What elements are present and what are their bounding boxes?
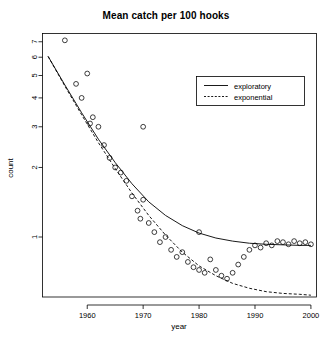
y-tick-label: 1 [30, 235, 39, 239]
data-point [138, 216, 143, 221]
data-point [258, 245, 263, 250]
legend-label-exponential: exponential [234, 93, 273, 102]
y-axis: 1234567 [30, 40, 43, 239]
data-point [236, 262, 241, 267]
y-tick-label: 4 [30, 96, 39, 100]
data-point [303, 240, 308, 245]
data-point [269, 243, 274, 248]
data-point [219, 273, 224, 278]
data-point [135, 208, 140, 213]
data-point [208, 257, 213, 262]
data-point [152, 230, 157, 235]
y-tick-label: 7 [30, 40, 39, 44]
data-point [79, 96, 84, 101]
data-point [74, 81, 79, 86]
data-point [185, 260, 190, 265]
data-point [292, 239, 297, 244]
legend-label-exploratory: exploratory [234, 82, 271, 91]
x-axis: 19601970198019902000 [79, 305, 319, 320]
data-point [146, 221, 151, 226]
x-tick-label: 2000 [303, 311, 320, 320]
data-point [264, 241, 269, 246]
data-point [281, 240, 286, 245]
chart-page: Mean catch per 100 hooks 1234567 1960197… [0, 0, 332, 345]
data-point [90, 115, 95, 120]
x-axis-title: year [171, 322, 187, 331]
scatter-plot: 1234567 19601970198019902000 count year … [0, 0, 332, 345]
legend: exploratory exponential [197, 77, 305, 106]
data-point [247, 247, 252, 252]
data-point [118, 170, 123, 175]
x-tick-label: 1970 [135, 311, 152, 320]
data-point [62, 38, 67, 43]
data-point [309, 242, 314, 247]
data-point-outlier [141, 124, 146, 129]
data-point [191, 265, 196, 270]
data-point [202, 270, 207, 275]
y-axis-title: count [6, 157, 15, 177]
data-point [124, 178, 129, 183]
data-point [275, 239, 280, 244]
data-point [241, 255, 246, 260]
x-tick-label: 1980 [191, 311, 208, 320]
data-point [197, 268, 202, 273]
data-point [230, 270, 235, 275]
data-point [180, 250, 185, 255]
data-point [96, 124, 101, 129]
data-point [158, 240, 163, 245]
x-tick-label: 1960 [79, 311, 96, 320]
data-point [85, 71, 90, 76]
y-tick-label: 3 [30, 125, 39, 129]
data-point [297, 241, 302, 246]
y-tick-label: 6 [30, 55, 39, 59]
data-point [141, 197, 146, 202]
data-point [130, 194, 135, 199]
y-tick-label: 2 [30, 165, 39, 169]
plot-border [43, 34, 317, 298]
data-point [213, 268, 218, 273]
data-point [286, 242, 291, 247]
x-tick-label: 1990 [247, 311, 264, 320]
data-point [174, 255, 179, 260]
y-tick-label: 5 [30, 73, 39, 77]
plot-frame [43, 34, 317, 298]
data-point [169, 247, 174, 252]
